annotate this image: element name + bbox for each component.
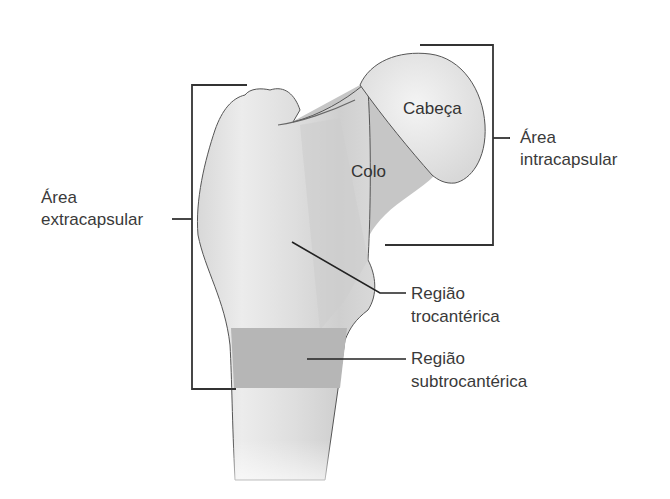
- label-extracapsular-2: extracapsular: [41, 209, 143, 230]
- label-trochanteric-1: Região: [411, 283, 465, 304]
- label-neck: Colo: [351, 161, 386, 182]
- label-intracapsular-2: intracapsular: [520, 149, 617, 170]
- label-intracapsular-1: Área: [520, 127, 556, 148]
- label-head: Cabeça: [403, 98, 462, 119]
- label-subtrochanteric-2: subtrocantérica: [411, 371, 527, 392]
- label-subtrochanteric-1: Região: [411, 348, 465, 369]
- label-trochanteric-2: trocantérica: [411, 306, 500, 327]
- label-extracapsular-1: Área: [41, 187, 77, 208]
- subtrochanteric-band: [231, 328, 347, 388]
- shaft-fade: [225, 440, 355, 499]
- femur-diagram: [0, 0, 670, 499]
